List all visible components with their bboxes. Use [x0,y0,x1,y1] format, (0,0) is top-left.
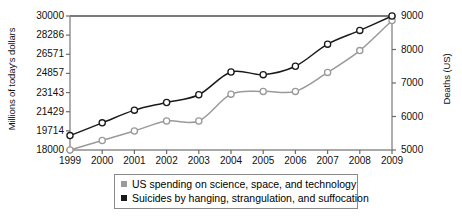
data-point-marker [228,91,234,97]
legend-item[interactable]: Suicides by hanging, strangulation, and … [121,191,351,205]
legend-swatch-icon [121,181,127,187]
data-point-marker [228,69,234,75]
chart-legend: US spending on science, space, and techn… [114,174,358,209]
data-point-marker [357,27,363,33]
series-line [70,20,392,150]
legend-swatch-icon [121,195,127,201]
chart-container: Millions of today's dollars Deaths (US) … [0,0,462,216]
data-point-marker [260,72,266,78]
data-point-marker [325,41,331,47]
data-point-marker [292,88,298,94]
data-point-marker [196,92,202,98]
data-point-marker [164,118,170,124]
data-point-marker [325,69,331,75]
data-point-marker [292,63,298,69]
data-point-marker [67,147,73,153]
data-point-marker [389,13,395,19]
data-point-marker [357,48,363,54]
legend-item-label: Suicides by hanging, strangulation, and … [132,192,369,204]
series-suicides [67,13,395,139]
data-point-marker [131,107,137,113]
series-line [70,16,392,136]
data-point-marker [164,99,170,105]
data-point-marker [99,137,105,143]
data-point-marker [260,88,266,94]
data-point-marker [131,128,137,134]
series-spending [67,17,395,153]
data-point-marker [67,132,73,138]
legend-item[interactable]: US spending on science, space, and techn… [121,177,351,191]
legend-item-label: US spending on science, space, and techn… [132,178,356,190]
data-point-marker [196,118,202,124]
data-point-marker [99,120,105,126]
